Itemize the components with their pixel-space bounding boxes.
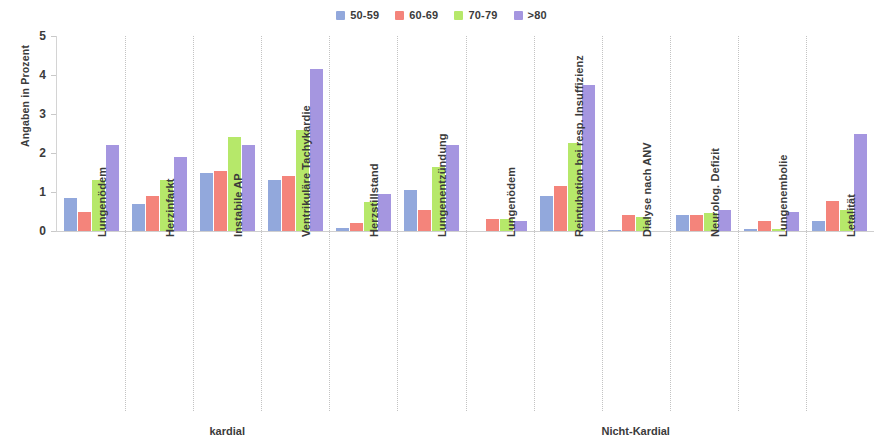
bar bbox=[690, 215, 703, 231]
bar bbox=[540, 196, 553, 231]
bar bbox=[404, 190, 417, 231]
bar bbox=[622, 215, 635, 231]
y-tick-label: 1 bbox=[26, 185, 46, 199]
x-axis-label: Lungenödem bbox=[96, 167, 108, 237]
x-axis-label: Lungenentzündung bbox=[436, 133, 448, 237]
bar-group bbox=[670, 36, 738, 231]
bar bbox=[812, 221, 825, 231]
bar bbox=[486, 219, 499, 231]
y-tick-label: 0 bbox=[26, 224, 46, 238]
chart-legend: 50-5960-6970-79>80 bbox=[0, 9, 883, 21]
bar bbox=[214, 171, 227, 231]
x-axis-label: Lungenembolie bbox=[777, 154, 789, 237]
bar bbox=[282, 176, 295, 231]
bar bbox=[336, 228, 349, 231]
legend-item: 50-59 bbox=[336, 9, 379, 21]
bar bbox=[78, 212, 91, 232]
bar bbox=[350, 223, 363, 231]
x-axis-label: Lungenödem bbox=[505, 167, 517, 237]
x-axis-label: Neurolog. Defizit bbox=[709, 148, 721, 237]
legend-swatch-icon bbox=[514, 11, 523, 20]
bar bbox=[64, 198, 77, 231]
bar-group bbox=[261, 36, 329, 231]
bar-group bbox=[125, 36, 193, 231]
x-axis-label: Herzstillstand bbox=[368, 163, 380, 237]
bar bbox=[826, 201, 839, 231]
bar-group bbox=[602, 36, 670, 231]
supergroup-label: Nicht-Kardial bbox=[601, 425, 669, 437]
x-axis-label: Reintubation bei resp. Insuffizienz bbox=[573, 55, 585, 237]
x-axis-label: Ventrikuläre Tachykardie bbox=[300, 105, 312, 237]
supergroup-label: kardial bbox=[209, 425, 244, 437]
bar bbox=[608, 230, 621, 231]
bar-group bbox=[329, 36, 397, 231]
x-axis-label: Herzinfarkt bbox=[164, 178, 176, 237]
x-axis-label: Dialyse nach ANV bbox=[641, 142, 653, 237]
bar bbox=[418, 210, 431, 231]
y-tick-label: 2 bbox=[26, 146, 46, 160]
x-axis-label: Letalität bbox=[845, 194, 857, 237]
legend-label: 70-79 bbox=[468, 9, 497, 21]
bar-group bbox=[806, 36, 874, 231]
bar-group bbox=[57, 36, 125, 231]
legend-label: 50-59 bbox=[350, 9, 379, 21]
y-tick-label: 5 bbox=[26, 29, 46, 43]
legend-item: >80 bbox=[514, 9, 547, 21]
legend-swatch-icon bbox=[395, 11, 404, 20]
bar-chart: 50-5960-6970-79>80 Angaben in Prozent 01… bbox=[0, 0, 883, 447]
bar bbox=[146, 196, 159, 231]
y-tick-label: 4 bbox=[26, 68, 46, 82]
bar bbox=[676, 215, 689, 231]
legend-swatch-icon bbox=[454, 11, 463, 20]
bar-group bbox=[534, 36, 602, 231]
legend-label: >80 bbox=[528, 9, 547, 21]
bar-group bbox=[193, 36, 261, 231]
bar-group bbox=[738, 36, 806, 231]
x-axis-label: Instabile AP bbox=[232, 173, 244, 237]
legend-item: 70-79 bbox=[454, 9, 497, 21]
bar bbox=[268, 180, 281, 231]
bar bbox=[744, 229, 757, 231]
bar bbox=[200, 173, 213, 232]
bar bbox=[758, 221, 771, 231]
plot-area bbox=[57, 36, 874, 231]
legend-label: 60-69 bbox=[409, 9, 438, 21]
bar-group bbox=[397, 36, 465, 231]
bar-group bbox=[466, 36, 534, 231]
bar bbox=[554, 186, 567, 231]
legend-swatch-icon bbox=[336, 11, 345, 20]
legend-item: 60-69 bbox=[395, 9, 438, 21]
y-tick-label: 3 bbox=[26, 107, 46, 121]
bar bbox=[132, 204, 145, 231]
